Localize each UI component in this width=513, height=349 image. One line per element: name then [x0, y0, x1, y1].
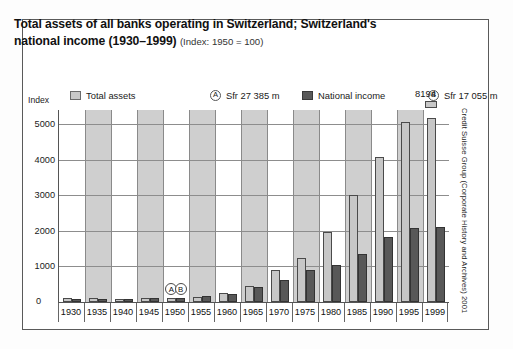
column-separator	[345, 110, 346, 302]
bar-total-assets	[141, 298, 150, 302]
y-axis-tick-label: 1000	[35, 261, 55, 271]
x-axis-tick-separator	[266, 303, 267, 322]
x-axis-tick-separator	[422, 303, 423, 322]
column-separator	[397, 110, 398, 302]
bar-national-income	[72, 299, 81, 302]
source-note: Credit Suisse Group (Corporate History a…	[455, 108, 469, 313]
x-axis-tick-label: 1955	[188, 307, 214, 317]
x-axis-tick-separator	[84, 303, 85, 322]
x-axis-tick-label: 1990	[370, 307, 396, 317]
x-axis-tick-separator	[58, 303, 59, 322]
column-separator	[293, 110, 294, 302]
bar-national-income	[384, 237, 393, 302]
x-axis-tick-label: 1965	[240, 307, 266, 317]
chart-title-line-2-text: national income (1930–1999)	[14, 34, 177, 48]
chart-title-line-2: national income (1930–1999) (Index: 1950…	[14, 33, 434, 50]
y-axis-tick-label: 4000	[35, 155, 55, 165]
y-axis-zero-label: 0	[36, 296, 41, 306]
x-axis-tick-label: 1930	[58, 307, 84, 317]
bar-national-income	[202, 296, 211, 302]
x-axis-tick-separator	[240, 303, 241, 322]
bar-national-income	[436, 227, 445, 302]
bar-national-income	[410, 228, 419, 302]
chart-title-subnote: (Index: 1950 = 100)	[180, 36, 263, 47]
legend-marker-a-icon: A	[210, 90, 221, 101]
x-axis-tick-label: 1975	[292, 307, 318, 317]
bar-national-income	[150, 298, 159, 302]
bar-national-income	[176, 298, 185, 302]
x-axis-tick-label: 1980	[318, 307, 344, 317]
legend-item-note-a: A Sfr 27 385 m	[210, 88, 280, 102]
bar-total-assets	[427, 118, 436, 302]
column-separator	[371, 110, 372, 302]
column-separator	[85, 110, 86, 302]
gridline	[59, 160, 449, 161]
y-axis-tick-label: 5000	[35, 119, 55, 129]
column-band	[241, 110, 267, 302]
y-axis-tick-label: 2000	[35, 226, 55, 236]
plot-area: 10002000300040005000AB	[58, 110, 449, 303]
column-separator	[189, 110, 190, 302]
y-axis-title: Index	[28, 95, 49, 105]
x-axis-tick-separator	[136, 303, 137, 322]
x-axis-tick-separator	[188, 303, 189, 322]
bar-total-assets	[375, 157, 384, 302]
column-band	[189, 110, 215, 302]
y-axis-tick-label: 3000	[35, 190, 55, 200]
bar-total-assets	[89, 298, 98, 302]
column-separator	[319, 110, 320, 302]
bar-national-income	[332, 265, 341, 302]
legend-item-note-b: B Sfr 17 055 m	[428, 88, 498, 102]
bar-national-income	[228, 294, 237, 302]
x-axis-tick-separator	[318, 303, 319, 322]
legend-label-note-a: Sfr 27 385 m	[226, 90, 280, 101]
bar-national-income	[124, 299, 133, 302]
x-axis-tick-label: 1940	[110, 307, 136, 317]
bar-national-income	[280, 280, 289, 302]
x-axis-tick-separator	[370, 303, 371, 322]
bar-total-assets	[219, 293, 228, 302]
column-separator	[163, 110, 164, 302]
bar-total-assets	[115, 299, 124, 302]
bar-truncation-cap	[425, 101, 437, 108]
bar-national-income	[358, 254, 367, 302]
x-axis-tick-separator	[110, 303, 111, 322]
column-separator	[423, 110, 424, 302]
column-separator	[215, 110, 216, 302]
annotation-marker-b: B	[175, 283, 187, 295]
peak-value-label: 8194	[415, 88, 436, 99]
x-axis-tick-separator	[344, 303, 345, 322]
x-axis-tick-label: 1960	[214, 307, 240, 317]
bar-total-assets	[297, 258, 306, 302]
bar-national-income	[254, 287, 263, 302]
x-axis: 1930193519401945195019551960196519701975…	[58, 303, 448, 325]
bar-total-assets	[167, 298, 176, 302]
column-band	[85, 110, 111, 302]
bar-total-assets	[323, 232, 332, 302]
chart-title: Total assets of all banks operating in S…	[14, 16, 434, 50]
bar-total-assets	[349, 195, 358, 302]
legend-item-total-assets: Total assets	[70, 88, 136, 102]
gridline	[59, 195, 449, 196]
x-axis-tick-separator	[214, 303, 215, 322]
x-axis-tick-label: 1970	[266, 307, 292, 317]
chart-title-line-1: Total assets of all banks operating in S…	[14, 16, 434, 33]
column-separator	[111, 110, 112, 302]
bar-total-assets	[63, 298, 72, 302]
x-axis-tick-label: 1999	[422, 307, 448, 317]
figure-page: Total assets of all banks operating in S…	[0, 0, 513, 349]
legend-label-total-assets: Total assets	[86, 90, 136, 101]
x-axis-tick-separator	[396, 303, 397, 322]
x-axis-tick-label: 1950	[162, 307, 188, 317]
column-band	[137, 110, 163, 302]
x-axis-tick-separator	[292, 303, 293, 322]
legend-item-national-income: National income	[302, 88, 385, 102]
column-separator	[267, 110, 268, 302]
gridline	[59, 124, 449, 125]
legend-label-national-income: National income	[318, 90, 385, 101]
x-axis-tick-label: 1985	[344, 307, 370, 317]
legend-swatch-national-income-icon	[302, 91, 313, 100]
x-axis-tick-label: 1995	[396, 307, 422, 317]
gridline	[59, 231, 449, 232]
x-axis-tick-separator	[162, 303, 163, 322]
